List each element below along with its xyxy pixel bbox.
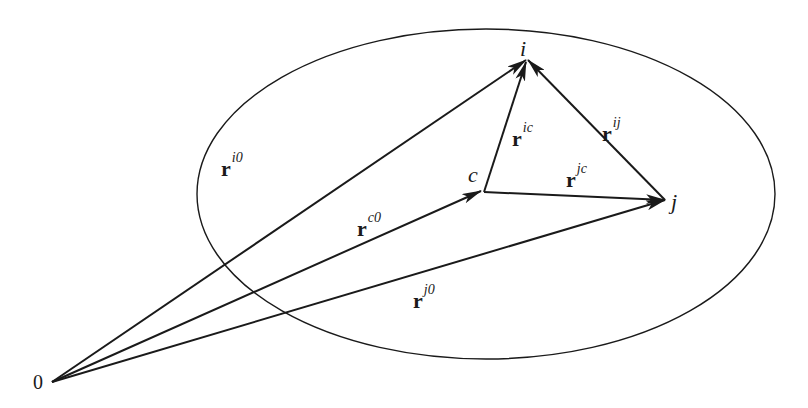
point-label-c: c — [468, 164, 478, 186]
label-r-c0: rc0 — [357, 218, 381, 240]
label-r-j0: rj0 — [413, 290, 435, 312]
label-r-ic: ric — [512, 128, 533, 150]
origin-label: 0 — [33, 372, 43, 392]
label-r-ij: rij — [602, 123, 621, 145]
vector-r-i0 — [52, 60, 526, 382]
point-label-i: i — [520, 38, 526, 60]
vector-r-ij — [528, 60, 665, 200]
label-r-i0: ri0 — [221, 158, 243, 180]
vector-diagram — [0, 0, 808, 408]
vector-r-c0 — [52, 191, 481, 382]
enclosing-ellipse — [197, 29, 775, 359]
vector-r-jc — [484, 192, 665, 200]
label-r-jc: rjc — [566, 169, 587, 191]
point-label-j: j — [671, 191, 677, 213]
